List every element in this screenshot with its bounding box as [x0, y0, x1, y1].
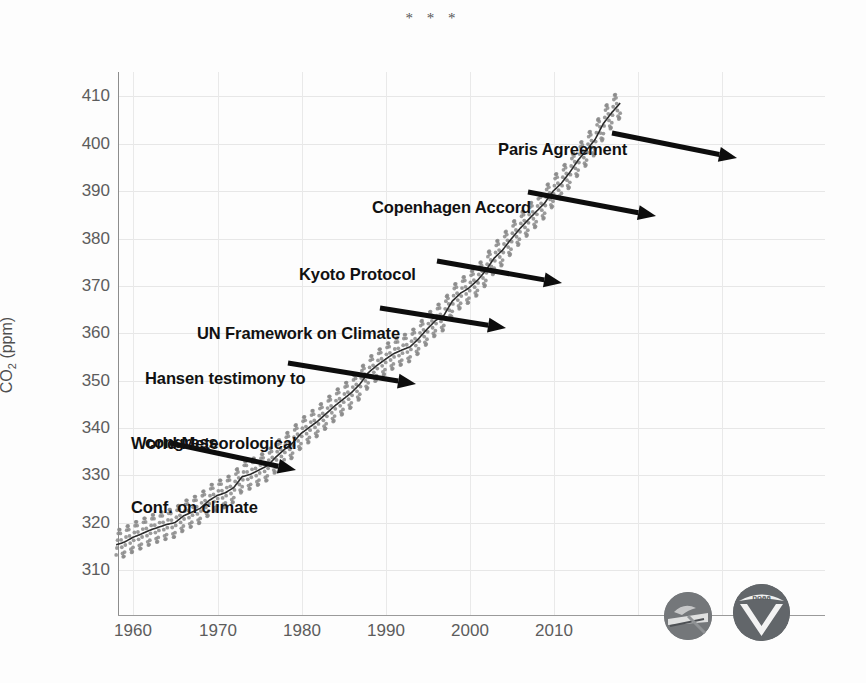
scripps-institution-logo: [664, 592, 712, 640]
noaa-logo: noaa: [733, 584, 790, 641]
arrow-head: [487, 318, 506, 333]
arrow-kyoto-protocol: [437, 261, 562, 287]
arrow-head: [637, 205, 656, 220]
arrow-paris-agreement: [612, 133, 737, 162]
arrow-head: [718, 147, 737, 162]
co2-keeling-curve-figure: 410 400 390 380 370 360 350 340 330 320 …: [0, 55, 866, 655]
section-separator: * * *: [0, 10, 866, 27]
noaa-logo-wordmark: noaa: [752, 593, 771, 602]
annotation-hansen-testimony-line1: Hansen testimony to: [145, 368, 305, 389]
annotation-world-meteorological-conf: World Meteorological Conf. on climate: [131, 391, 296, 560]
arrow-shaft: [437, 261, 544, 280]
annotation-world-meteorological-conf-line1: World Meteorological: [131, 433, 296, 454]
scripps-logo-graphic: [664, 592, 712, 640]
annotation-arrows: [0, 55, 866, 655]
noaa-logo-graphic: noaa: [733, 584, 790, 641]
arrow-head: [543, 272, 562, 287]
figure-page: * * * 410 40: [0, 0, 866, 683]
arrow-shaft: [612, 133, 719, 154]
annotation-world-meteorological-conf-line2: Conf. on climate: [131, 497, 296, 518]
annotation-copenhagen-accord-line1: Copenhagen Accord: [372, 197, 531, 218]
